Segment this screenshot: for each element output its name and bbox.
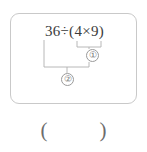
math-expression: 36÷(4×9) bbox=[11, 23, 138, 40]
answer-close-paren: ) bbox=[100, 118, 107, 142]
step-marker-1: ① bbox=[86, 49, 99, 62]
close-parenthesis: ) bbox=[99, 23, 104, 39]
inner-bracket-icon bbox=[77, 41, 101, 47]
multiplication-operator: × bbox=[82, 23, 91, 39]
answer-blank[interactable]: ( ) bbox=[10, 114, 137, 146]
division-operator: ÷ bbox=[61, 23, 70, 39]
outer-bracket-icon bbox=[44, 40, 89, 67]
step-marker-2: ② bbox=[61, 73, 74, 86]
factor-b-term: 9 bbox=[91, 23, 99, 39]
answer-open-paren: ( bbox=[41, 118, 48, 142]
problem-card: 36÷(4×9) ① ② bbox=[10, 13, 137, 104]
worksheet-page: 36÷(4×9) ① ② ( ) bbox=[0, 0, 147, 152]
dividend-term: 36 bbox=[45, 23, 61, 39]
